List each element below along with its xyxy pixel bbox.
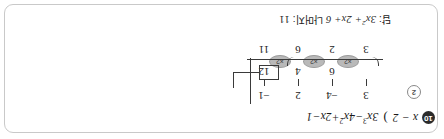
sum-row: 3 2 6 11 [229, 40, 379, 56]
worksheet-card: 10 x − 2 ) 3x3−4x2+2x−1 2 3 −4 2 −1 [4, 4, 438, 133]
divisor-expression: x − 2 [393, 112, 418, 124]
remainder-leader-line [233, 72, 259, 73]
dividend-term1-var: x [367, 111, 372, 123]
secondary-badge-holder: 2 [407, 85, 421, 104]
quotient-c1: 3 [371, 14, 376, 25]
dividend-term1-exp: 3 [363, 116, 367, 125]
quotient-e1: 2 [362, 19, 366, 27]
problem-number-badge: 10 [422, 112, 435, 125]
synthetic-division-tableau: 3 −4 2 −1 6 4 12 ×2 ×2 [229, 34, 379, 102]
remainder-leader-line-vertical [233, 72, 234, 88]
coefficient-cell: −4 [319, 90, 345, 102]
dividend-term3-coef: +2 [326, 111, 340, 123]
sum-cell: 2 [319, 44, 345, 56]
quotient-v1: x [366, 14, 371, 25]
dividend-term3-var: x [320, 111, 325, 123]
remainder-label: 나머지: [292, 14, 323, 25]
synthetic-division-worksheet: 10 x − 2 ) 3x3−4x2+2x−1 2 3 −4 2 −1 [195, 10, 435, 128]
answer-label: 답: [379, 14, 391, 25]
dividend-term2-var: x [344, 111, 349, 123]
dividend-term2-coef: −4 [349, 111, 363, 123]
coefficient-row: 3 −4 2 −1 [229, 86, 379, 102]
coefficient-tick [264, 79, 265, 86]
coefficient-cell: 3 [353, 90, 379, 102]
quotient-c2: + 2 [346, 14, 362, 25]
answer-row: 답: 3x2+ 2x+ 6 나머지: 11 [279, 13, 391, 28]
division-paren: ) [382, 110, 388, 126]
remainder-value: 11 [279, 14, 290, 25]
remainder-highlight-box [259, 65, 279, 80]
sum-cell: 6 [285, 44, 311, 56]
quotient-c3: + 6 [326, 14, 342, 25]
quotient-brace [287, 57, 379, 66]
dividend-term2-exp: 2 [340, 116, 344, 125]
product-cell: 6 [319, 66, 345, 78]
dividend-term4-const: −1 [306, 111, 320, 123]
dividend-term1-coef: 3 [372, 111, 378, 123]
answer-quotient: 3x2+ 2x+ 6 [323, 14, 376, 25]
coefficient-tick [298, 79, 299, 86]
sum-cell: 3 [353, 44, 379, 56]
coefficient-cell: 2 [285, 90, 311, 102]
coefficient-tick [366, 79, 367, 86]
coefficient-tick [332, 79, 333, 86]
step-number-badge: 2 [407, 85, 421, 99]
problem-statement-row: 10 x − 2 ) 3x3−4x2+2x−1 [306, 110, 435, 126]
product-cell: 4 [285, 66, 311, 78]
rotated-content-wrapper: 10 x − 2 ) 3x3−4x2+2x−1 2 3 −4 2 −1 [5, 5, 438, 133]
dividend-expression: 3x3−4x2+2x−1 [306, 111, 378, 125]
remainder-sum-cell: 11 [251, 44, 277, 56]
coefficient-cell: −1 [251, 90, 277, 102]
quotient-v2: x [341, 14, 346, 25]
